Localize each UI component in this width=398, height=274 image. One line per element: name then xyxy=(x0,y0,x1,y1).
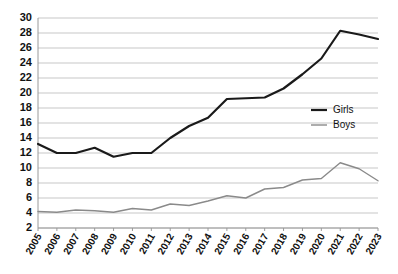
y-axis-tick-label: 16 xyxy=(20,116,32,128)
y-axis-tick-label: 24 xyxy=(20,56,33,68)
x-axis-labels: 2005200620072008200920102011201220132014… xyxy=(23,228,384,256)
x-axis-tick-label: 2012 xyxy=(155,231,176,256)
y-axis-tick-label: 14 xyxy=(20,131,33,143)
x-axis-tick-label: 2023 xyxy=(363,231,384,256)
x-axis-tick-label: 2013 xyxy=(174,231,195,256)
series-line-boys xyxy=(38,163,378,213)
x-axis-tick-label: 2014 xyxy=(193,231,214,256)
x-axis-tick-label: 2019 xyxy=(288,231,309,256)
x-axis-tick-label: 2007 xyxy=(61,231,82,256)
y-axis-labels: 30282624222018161412108642 xyxy=(20,11,33,233)
x-axis-tick-label: 2017 xyxy=(250,231,271,256)
legend-label-girls: Girls xyxy=(333,104,354,115)
x-axis-tick-label: 2016 xyxy=(231,231,252,256)
x-axis-tick-label: 2011 xyxy=(137,231,158,256)
y-axis-tick-label: 20 xyxy=(20,86,32,98)
y-axis-tick-label: 8 xyxy=(26,176,32,188)
y-axis-tick-label: 12 xyxy=(20,146,32,158)
y-axis-tick-label: 30 xyxy=(20,11,32,23)
line-chart: 30282624222018161412108642 2005200620072… xyxy=(0,0,398,274)
x-axis-tick-label: 2010 xyxy=(118,231,139,256)
y-axis-tick-label: 10 xyxy=(20,161,32,173)
x-axis-tick-label: 2015 xyxy=(212,231,233,256)
y-axis-tick-label: 6 xyxy=(26,191,32,203)
x-axis-tick-label: 2020 xyxy=(306,231,327,256)
y-axis-tick-label: 26 xyxy=(20,41,32,53)
legend-label-boys: Boys xyxy=(333,119,355,130)
x-axis-tick-label: 2008 xyxy=(80,231,101,256)
y-axis-tick-label: 22 xyxy=(20,71,32,83)
y-axis-tick-label: 28 xyxy=(20,26,32,38)
x-axis-tick-label: 2006 xyxy=(42,231,63,256)
x-axis-tick-label: 2009 xyxy=(99,231,120,256)
y-axis-tick-label: 2 xyxy=(26,221,32,233)
y-axis-tick-label: 4 xyxy=(26,206,33,218)
x-axis-tick-label: 2005 xyxy=(23,231,44,256)
x-axis-tick-label: 2021 xyxy=(325,231,346,256)
x-axis-tick-label: 2022 xyxy=(344,231,365,256)
y-axis-tick-label: 18 xyxy=(20,101,32,113)
data-series xyxy=(38,31,378,213)
chart-container: 30282624222018161412108642 2005200620072… xyxy=(0,0,398,274)
x-axis-tick-label: 2018 xyxy=(269,231,290,256)
